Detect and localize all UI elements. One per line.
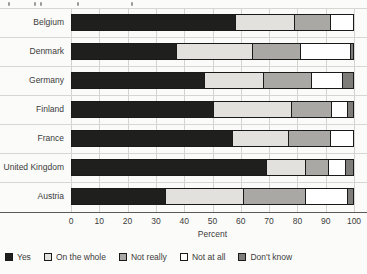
bar-segment-yes: [72, 15, 235, 30]
x-tick-label-70: 70: [264, 216, 273, 226]
bar-segment-don-t-know: [342, 73, 353, 88]
bar-segment-yes: [72, 44, 176, 59]
category-label: France: [0, 133, 64, 143]
bar-segment-not-really: [252, 44, 300, 59]
bar-wrapper: [71, 159, 354, 176]
legend-item: On the whole: [44, 252, 106, 262]
bar-segment-not-really: [294, 15, 331, 30]
x-tick-label-50: 50: [208, 216, 217, 226]
x-tick-label-100: 100: [347, 216, 361, 226]
x-tick-label-10: 10: [95, 216, 104, 226]
x-axis-ticks: 0102030405060708090100: [71, 216, 354, 228]
stacked-bar-united-kingdom: [71, 159, 354, 176]
chart-row: Germany: [0, 66, 367, 95]
bar-segment-don-t-know: [347, 189, 353, 204]
bar-segment-yes: [72, 160, 266, 175]
bar-segment-on-the-whole: [232, 131, 288, 146]
bar-segment-not-at-all: [311, 73, 342, 88]
bar-segment-yes: [72, 189, 165, 204]
bar-segment-not-really: [263, 73, 311, 88]
stacked-bar-belgium: [71, 14, 354, 31]
bar-segment-not-really: [305, 160, 327, 175]
stacked-bar-austria: [71, 188, 354, 205]
chart-row: Austria: [0, 182, 367, 211]
bar-segment-yes: [72, 131, 232, 146]
category-label: Austria: [0, 191, 64, 201]
legend-item: Not really: [119, 252, 167, 262]
chart-row: United Kingdom: [0, 153, 367, 182]
cropped-text-fragment: [40, 2, 42, 6]
legend-label: Not at all: [192, 252, 226, 262]
bar-wrapper: [71, 188, 354, 205]
chart-row: France: [0, 124, 367, 153]
legend-swatch: [5, 253, 13, 261]
category-label: Germany: [0, 75, 64, 85]
chart-rows: BelgiumDenmarkGermanyFinlandFranceUnited…: [0, 8, 367, 211]
x-tick-label-20: 20: [123, 216, 132, 226]
category-label: Denmark: [0, 46, 64, 56]
bar-segment-not-really: [288, 131, 330, 146]
cropped-text-fragment: [131, 2, 133, 6]
bar-segment-not-at-all: [328, 160, 345, 175]
x-tick-label-90: 90: [321, 216, 330, 226]
x-axis-line: [0, 212, 367, 213]
stacked-bar-finland: [71, 101, 354, 118]
bar-wrapper: [71, 130, 354, 147]
legend-label: Yes: [17, 252, 31, 262]
bar-segment-not-at-all: [300, 44, 351, 59]
cropped-text-fragment: [77, 2, 79, 6]
legend-swatch: [238, 253, 246, 261]
category-label: United Kingdom: [0, 162, 64, 172]
bar-segment-on-the-whole: [204, 73, 263, 88]
bar-segment-on-the-whole: [266, 160, 305, 175]
legend-item: Don't know: [238, 252, 292, 262]
category-label: Belgium: [0, 17, 64, 27]
bar-wrapper: [71, 14, 354, 31]
x-tick-label-80: 80: [293, 216, 302, 226]
bar-segment-not-at-all: [331, 102, 348, 117]
x-tick-label-40: 40: [179, 216, 188, 226]
legend-label: Not really: [131, 252, 167, 262]
legend-swatch: [119, 253, 127, 261]
legend-item: Not at all: [180, 252, 226, 262]
bar-segment-yes: [72, 102, 213, 117]
bar-segment-not-really: [291, 102, 330, 117]
bar-segment-yes: [72, 73, 204, 88]
bar-segment-on-the-whole: [165, 189, 244, 204]
bar-segment-on-the-whole: [235, 15, 294, 30]
bar-segment-on-the-whole: [213, 102, 292, 117]
x-axis-title: Percent: [71, 229, 354, 239]
x-tick-label-60: 60: [236, 216, 245, 226]
legend-swatch: [44, 253, 52, 261]
chart-row: Finland: [0, 95, 367, 124]
bar-wrapper: [71, 72, 354, 89]
bar-segment-don-t-know: [345, 160, 353, 175]
bar-wrapper: [71, 101, 354, 118]
legend-label: Don't know: [250, 252, 292, 262]
legend: YesOn the wholeNot reallyNot at allDon't…: [5, 252, 365, 262]
bar-segment-not-really: [243, 189, 305, 204]
stacked-bar-france: [71, 130, 354, 147]
x-tick-label-30: 30: [151, 216, 160, 226]
x-tick-label-0: 0: [69, 216, 74, 226]
cropped-caption-fragments: [0, 1, 367, 7]
bar-segment-not-at-all: [330, 15, 352, 30]
bar-segment-not-at-all: [330, 131, 352, 146]
bar-segment-don-t-know: [350, 44, 353, 59]
bar-wrapper: [71, 43, 354, 60]
stacked-bar-germany: [71, 72, 354, 89]
stacked-bar-chart-figure: BelgiumDenmarkGermanyFinlandFranceUnited…: [0, 0, 367, 274]
legend-swatch: [180, 253, 188, 261]
stacked-bar-denmark: [71, 43, 354, 60]
chart-row: Denmark: [0, 37, 367, 66]
legend-label: On the whole: [56, 252, 106, 262]
legend-item: Yes: [5, 252, 31, 262]
cropped-text-fragment: [34, 2, 36, 6]
category-label: Finland: [0, 104, 64, 114]
bar-segment-don-t-know: [347, 102, 353, 117]
chart-row: Belgium: [0, 8, 367, 37]
cropped-text-fragment: [8, 2, 10, 6]
bar-segment-on-the-whole: [176, 44, 252, 59]
bar-segment-not-at-all: [305, 189, 347, 204]
